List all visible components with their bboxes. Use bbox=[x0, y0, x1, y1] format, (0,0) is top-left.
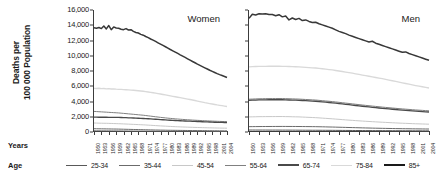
x-tick-label: 1962 bbox=[291, 143, 296, 154]
y-tick-label: 6,000 bbox=[71, 83, 89, 91]
series-line-35-44 bbox=[249, 126, 429, 129]
x-tick-label: 1968 bbox=[140, 143, 145, 154]
plot-area-women bbox=[93, 10, 228, 132]
x-tick-label: 1965 bbox=[133, 143, 138, 154]
x-tick-label: 1980 bbox=[351, 143, 356, 154]
y-tick-label: 4,000 bbox=[71, 98, 89, 106]
legend-item[interactable]: 35-44 bbox=[119, 162, 172, 169]
x-tick-label: 1998 bbox=[214, 143, 219, 154]
legend-swatch bbox=[172, 165, 193, 166]
x-tick-label: 1965 bbox=[301, 143, 306, 154]
row-label-years: Years bbox=[8, 141, 28, 150]
x-tick-label: 1995 bbox=[401, 143, 406, 154]
x-tick-label: 1971 bbox=[148, 143, 153, 154]
x-tick-label: 1992 bbox=[391, 143, 396, 154]
panel-men: Men bbox=[248, 10, 430, 132]
y-tick-label: 16,000 bbox=[67, 6, 89, 14]
x-tick-label: 1962 bbox=[126, 143, 131, 154]
x-tick-label: 2004 bbox=[229, 143, 234, 154]
legend-item[interactable]: 85+ bbox=[384, 162, 431, 169]
x-tick-label: 1956 bbox=[271, 143, 276, 154]
legend: 25-3435-4445-5455-6465-7475-8485+ bbox=[66, 158, 431, 172]
series-line-45-54 bbox=[94, 123, 227, 128]
x-tick-label: 1980 bbox=[170, 143, 175, 154]
x-tick-label: 1956 bbox=[111, 143, 116, 154]
x-tick-label: 1995 bbox=[207, 143, 212, 154]
y-tick-label: 8,000 bbox=[71, 67, 89, 75]
legend-item[interactable]: 65-74 bbox=[278, 162, 331, 169]
x-tick-label: 1953 bbox=[103, 143, 108, 154]
legend-swatch bbox=[119, 165, 140, 166]
legend-swatch bbox=[331, 165, 352, 166]
x-tick-label: 1971 bbox=[321, 143, 326, 154]
x-axis-tick-labels-men: 1950195319561959196219651968197119741977… bbox=[248, 133, 430, 155]
x-tick-label: 1959 bbox=[281, 143, 286, 154]
y-tick-label: 12,000 bbox=[67, 37, 89, 45]
x-tick-label: 1986 bbox=[185, 143, 190, 154]
series-line-65-74 bbox=[94, 117, 227, 122]
legend-label: 35-44 bbox=[144, 162, 161, 169]
x-tick-label: 1977 bbox=[163, 143, 168, 154]
legend-label: 65-74 bbox=[303, 162, 320, 169]
row-label-age: Age bbox=[8, 161, 22, 170]
legend-item[interactable]: 55-64 bbox=[225, 162, 278, 169]
x-axis-tick-labels-women: 1950195319561959196219651968197119741977… bbox=[93, 133, 228, 155]
legend-label: 25-34 bbox=[91, 162, 108, 169]
x-tick-label: 1989 bbox=[192, 143, 197, 154]
legend-item[interactable]: 75-84 bbox=[331, 162, 384, 169]
x-tick-label: 1950 bbox=[251, 143, 256, 154]
x-tick-label: 1983 bbox=[361, 143, 366, 154]
y-axis-title: Deaths per 100 000 Population bbox=[11, 8, 32, 118]
y-axis-title-line2: 100 000 Population bbox=[21, 25, 31, 100]
x-tick-label: 1950 bbox=[96, 143, 101, 154]
y-axis-tick-labels: 02,0004,0006,0008,00010,00012,00014,0001… bbox=[40, 10, 92, 132]
series-line-65-74 bbox=[249, 100, 429, 112]
x-tick-label: 1986 bbox=[371, 143, 376, 154]
x-tick-label: 1977 bbox=[341, 143, 346, 154]
legend-item[interactable]: 25-34 bbox=[66, 162, 119, 169]
legend-label: 85+ bbox=[409, 162, 420, 169]
x-tick-label: 1998 bbox=[411, 143, 416, 154]
series-line-45-54 bbox=[249, 117, 429, 125]
x-tick-label: 1968 bbox=[311, 143, 316, 154]
panel-women: Women bbox=[93, 10, 228, 132]
legend-item[interactable]: 45-54 bbox=[172, 162, 225, 169]
x-tick-label: 2001 bbox=[222, 143, 227, 154]
y-tick-label: 10,000 bbox=[67, 52, 89, 60]
series-line-85+ bbox=[249, 14, 429, 61]
series-line-75-84 bbox=[249, 66, 429, 88]
y-axis-title-line1: Deaths per bbox=[11, 41, 21, 84]
legend-label: 75-84 bbox=[356, 162, 373, 169]
legend-label: 45-54 bbox=[197, 162, 214, 169]
x-tick-label: 1974 bbox=[155, 143, 160, 154]
y-tick-label: 14,000 bbox=[67, 22, 89, 30]
legend-swatch bbox=[66, 165, 87, 166]
y-tick-label: 2,000 bbox=[71, 113, 89, 121]
x-tick-label: 2001 bbox=[421, 143, 426, 154]
x-tick-label: 1989 bbox=[381, 143, 386, 154]
series-line-85+ bbox=[94, 26, 227, 78]
legend-swatch bbox=[278, 164, 299, 166]
series-line-25-34 bbox=[249, 130, 429, 131]
legend-label: 55-64 bbox=[250, 162, 267, 169]
y-tick-label: 0 bbox=[85, 128, 89, 136]
x-tick-label: 1974 bbox=[331, 143, 336, 154]
series-line-75-84 bbox=[94, 88, 227, 106]
x-tick-label: 2004 bbox=[431, 143, 436, 154]
x-tick-label: 1959 bbox=[118, 143, 123, 154]
x-tick-label: 1992 bbox=[199, 143, 204, 154]
legend-swatch bbox=[384, 164, 405, 166]
legend-swatch bbox=[225, 165, 246, 166]
x-tick-label: 1983 bbox=[177, 143, 182, 154]
plot-area-men bbox=[248, 10, 430, 132]
x-tick-label: 1953 bbox=[261, 143, 266, 154]
